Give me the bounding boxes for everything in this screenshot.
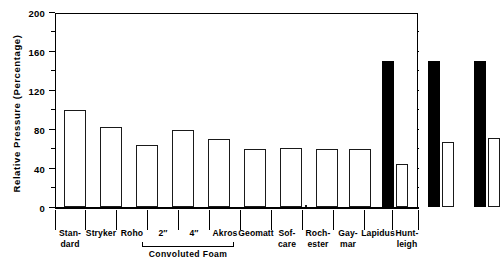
category-separator — [55, 210, 56, 230]
bar-stryker — [100, 127, 122, 207]
y-tick-label-200: 200 — [5, 8, 45, 19]
bar-huntleigh-open — [488, 138, 500, 207]
bar-geomatt — [280, 148, 302, 208]
bar-gaymar-open — [396, 164, 408, 207]
y-axis-title: Relative Pressure (Percentage) — [11, 14, 22, 214]
bar-standard — [64, 110, 86, 208]
plot-area — [55, 13, 418, 208]
bar-gaymar-filled — [382, 61, 394, 207]
category-separator — [209, 210, 210, 230]
bar-four-inch-foam — [208, 139, 230, 207]
bar-rochester-open — [349, 149, 371, 208]
convoluted-foam-bracket — [142, 242, 234, 247]
bar-lapidus-open — [442, 142, 454, 207]
x-axis-labels: Stan- dard Stryker Roho 2″ 4″ Akros Geom… — [0, 210, 437, 272]
category-separator — [392, 210, 393, 230]
bar-roho — [136, 145, 158, 207]
category-separator — [333, 210, 334, 230]
category-separator — [302, 210, 303, 230]
category-separator — [418, 210, 419, 230]
x-axis-baseline — [55, 207, 419, 209]
category-separator — [147, 210, 148, 230]
y-tick-label-160: 160 — [5, 47, 45, 58]
category-separator — [178, 210, 179, 230]
x-label-huntleigh: Hunt- leigh — [383, 228, 431, 249]
bar-huntleigh-filled — [474, 61, 486, 207]
category-separator — [85, 210, 86, 230]
bar-lapidus-filled — [428, 61, 440, 207]
y-tick-label-80: 80 — [5, 125, 45, 136]
bar-sofcare — [316, 149, 338, 208]
category-separator — [271, 210, 272, 230]
category-separator — [364, 210, 365, 230]
bar-akros — [244, 149, 266, 208]
category-separator — [116, 210, 117, 230]
bar-two-inch-foam — [172, 130, 194, 207]
y-tick-label-120: 120 — [5, 86, 45, 97]
y-tick-label-40: 40 — [5, 164, 45, 175]
category-separator — [240, 210, 241, 230]
convoluted-foam-label: Convoluted Foam — [118, 249, 258, 259]
